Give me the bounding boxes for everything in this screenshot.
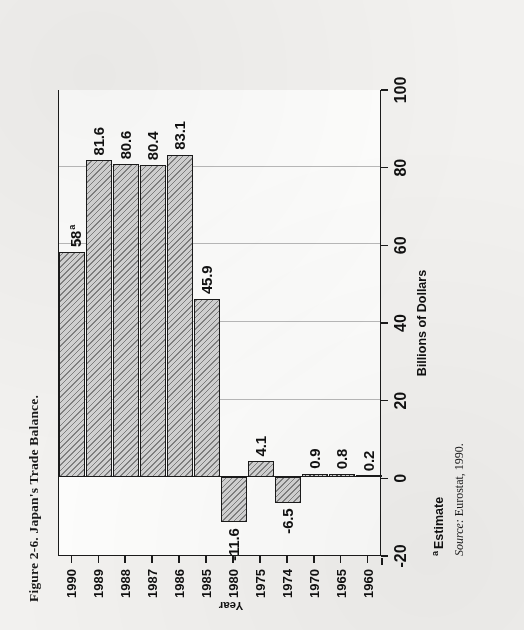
bar-row: 45.9 xyxy=(194,90,220,555)
bar-row: 0.2 xyxy=(356,90,382,555)
bar-1960[interactable] xyxy=(356,475,382,477)
bar-value-label: -6.5 xyxy=(275,509,301,534)
x-axis-title: Year xyxy=(218,600,242,612)
year-tick xyxy=(151,556,153,563)
bar-1987[interactable] xyxy=(140,165,166,477)
scanned-page: Figure 2-6. Japan's Trade Balance. 0.20.… xyxy=(0,0,524,630)
bar-1975[interactable] xyxy=(248,461,274,477)
bar-row: 58a xyxy=(59,90,85,555)
bar-1970[interactable] xyxy=(302,474,328,477)
bar-value-label: 4.1 xyxy=(248,436,274,456)
value-tick xyxy=(381,558,383,565)
source-label: Source: xyxy=(452,519,466,556)
bar-row: 0.8 xyxy=(329,90,355,555)
bar-1985[interactable] xyxy=(194,299,220,477)
bar-1965[interactable] xyxy=(329,474,355,477)
year-label-1990: 1990 xyxy=(64,569,79,598)
source-line: Source: Eurostat, 1990. xyxy=(452,443,467,556)
bar-row: 80.6 xyxy=(113,90,139,555)
year-tick xyxy=(124,556,126,563)
bar-value-label: 80.4 xyxy=(140,132,166,160)
bar-value-label: 80.6 xyxy=(113,131,139,159)
footnote-marker: a xyxy=(430,551,440,556)
bar-chart: 0.20.80.9-6.54.1-11.645.983.180.480.681.… xyxy=(58,90,403,556)
year-tick xyxy=(367,556,369,563)
year-tick xyxy=(98,556,100,563)
bar-value-label: 0.2 xyxy=(356,451,382,471)
year-label-1987: 1987 xyxy=(145,569,160,598)
year-tick xyxy=(178,556,180,563)
year-label-1988: 1988 xyxy=(118,569,133,598)
bar-1990[interactable] xyxy=(59,252,85,477)
value-label: -20 xyxy=(392,544,410,567)
value-label: 100 xyxy=(392,77,410,104)
bar-row: -6.5 xyxy=(275,90,301,555)
year-tick xyxy=(71,556,73,563)
bar-value-label: 45.9 xyxy=(194,266,220,294)
bar-row: 81.6 xyxy=(86,90,112,555)
figure-stage: Figure 2-6. Japan's Trade Balance. 0.20.… xyxy=(0,0,524,630)
bar-value-label: 83.1 xyxy=(167,121,193,149)
value-label: 20 xyxy=(392,392,410,410)
bar-row: 83.1 xyxy=(167,90,193,555)
year-tick xyxy=(259,556,261,563)
value-tick xyxy=(381,245,388,247)
y-axis-title: Billions of Dollars xyxy=(415,90,429,556)
year-label-1965: 1965 xyxy=(333,569,348,598)
bar-row: -11.6 xyxy=(221,90,247,555)
year-label-1970: 1970 xyxy=(306,569,321,598)
estimate-marker: a xyxy=(67,225,77,230)
bar-value-label: 58a xyxy=(59,225,89,247)
year-label-1960: 1960 xyxy=(360,569,375,598)
bar-value-label: 0.9 xyxy=(302,449,328,469)
value-label: 40 xyxy=(392,314,410,332)
value-tick xyxy=(381,478,388,480)
bar-1986[interactable] xyxy=(167,155,193,478)
figure-caption: Figure 2-6. Japan's Trade Balance. xyxy=(26,395,42,602)
value-tick xyxy=(381,555,388,557)
value-label: 0 xyxy=(392,474,410,483)
value-tick xyxy=(381,400,388,402)
year-tick xyxy=(340,556,342,563)
value-tick xyxy=(381,322,388,324)
bar-value-label: 81.6 xyxy=(86,127,112,155)
bar-1980[interactable] xyxy=(221,477,247,522)
year-label-1989: 1989 xyxy=(91,569,106,598)
bar-value-label: 0.8 xyxy=(329,449,355,469)
year-tick xyxy=(232,556,234,563)
year-label-1975: 1975 xyxy=(252,569,267,598)
bar-1974[interactable] xyxy=(275,477,301,502)
footnote-estimate: aEstimate xyxy=(430,497,446,556)
bar-row: 80.4 xyxy=(140,90,166,555)
bar-row: 0.9 xyxy=(302,90,328,555)
year-tick xyxy=(313,556,315,563)
bar-value-label: -11.6 xyxy=(221,528,247,560)
year-tick xyxy=(286,556,288,563)
bar-row: 4.1 xyxy=(248,90,274,555)
value-label: 80 xyxy=(392,159,410,177)
source-text: Eurostat, 1990. xyxy=(452,443,466,516)
bar-1988[interactable] xyxy=(113,164,139,477)
year-label-1974: 1974 xyxy=(279,569,294,598)
year-label-1985: 1985 xyxy=(199,569,214,598)
value-label: 60 xyxy=(392,236,410,254)
year-label-1986: 1986 xyxy=(172,569,187,598)
plot-area: 0.20.80.9-6.54.1-11.645.983.180.480.681.… xyxy=(58,90,381,556)
year-label-1980: 1980 xyxy=(225,569,240,598)
bar-1989[interactable] xyxy=(86,160,112,477)
footnote-text: Estimate xyxy=(432,497,446,549)
year-tick xyxy=(205,556,207,563)
value-tick xyxy=(381,89,388,91)
value-tick xyxy=(381,167,388,169)
